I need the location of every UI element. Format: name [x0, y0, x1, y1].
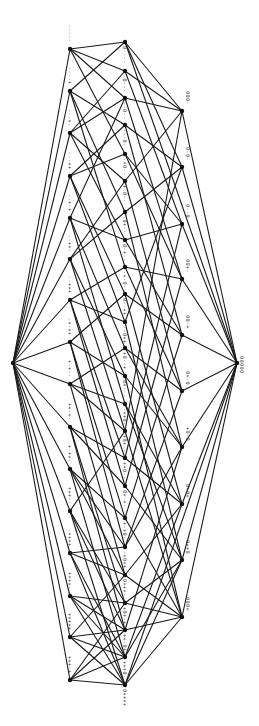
node-right — [180, 222, 184, 226]
node-label-left: ++++- — [67, 572, 73, 590]
edge-top-left — [13, 342, 70, 363]
node-middle — [123, 429, 127, 433]
node-label-middle: -+0-- — [122, 158, 128, 176]
edge-middle-right — [125, 111, 182, 181]
edge-top-left — [13, 91, 70, 363]
node-label-middle: 0+--- — [122, 380, 128, 398]
node-left — [68, 425, 72, 429]
node-label-left: ----- — [67, 25, 73, 43]
node-middle — [123, 265, 127, 269]
node-middle — [123, 69, 127, 73]
node-left — [68, 89, 72, 93]
node-label-right: 0--0 — [185, 204, 191, 218]
edge-top-left — [13, 133, 70, 363]
node-right — [180, 109, 184, 113]
edge-middle-right — [125, 294, 182, 504]
node-label-middle: -0--- — [122, 75, 128, 93]
node-middle — [123, 573, 127, 577]
edge-left-middle — [70, 553, 125, 685]
node-middle — [123, 456, 127, 460]
node-label-middle: -++0- — [122, 408, 128, 426]
node-label-middle: ---0- — [122, 129, 128, 147]
node-label-middle: 0++++ — [122, 689, 128, 707]
node-right — [180, 445, 184, 449]
node-label-left: +-++- — [67, 445, 73, 463]
node-left — [68, 174, 72, 178]
node-right — [180, 277, 184, 281]
lattice-svg: 00000---------+---+----++--+-+--++---+++… — [0, 0, 259, 726]
edge-middle-bottom — [125, 42, 237, 363]
node-label-middle: +++0- — [122, 661, 128, 679]
node-label-left: ---+- — [67, 109, 73, 127]
node-left — [68, 467, 72, 471]
node-label-middle: -+0++ — [122, 551, 128, 569]
node-right — [180, 615, 184, 619]
node-label-middle: +0+-+ — [122, 607, 128, 625]
edge-top-left — [13, 363, 70, 469]
edge-top-left — [13, 363, 70, 596]
edge-top-left — [13, 218, 70, 363]
node-label-right: 0++0 — [185, 540, 191, 554]
edge-left-middle — [70, 133, 125, 240]
node-left — [68, 594, 72, 598]
node-label-right: 000- — [185, 91, 191, 105]
edge-left-middle — [70, 469, 125, 575]
node-middle — [123, 123, 127, 127]
node-label-left: +++-+ — [67, 656, 73, 674]
edge-left-middle — [70, 547, 125, 553]
node-label-left: +-+-- — [67, 360, 73, 378]
node-middle — [123, 346, 127, 350]
node-label-right: 00+- — [185, 259, 191, 273]
node-left — [68, 298, 72, 302]
edge-middle-right — [125, 617, 182, 685]
node-middle — [123, 683, 127, 687]
node-middle — [123, 516, 127, 520]
node-right — [180, 165, 184, 169]
edge-top-left — [13, 363, 70, 384]
node-label-middle: ++-0+ — [122, 634, 128, 652]
node-label-left: --+++ — [67, 276, 73, 294]
node-label-middle: -+-0- — [122, 271, 128, 289]
node-label-middle: +-0-- — [122, 185, 128, 203]
node-middle — [123, 96, 127, 100]
node-left — [68, 509, 72, 513]
node-left — [68, 340, 72, 344]
node-right — [180, 389, 184, 393]
edge-left-middle — [70, 342, 125, 518]
edge-middle-right — [125, 560, 182, 685]
node-middle — [123, 628, 127, 632]
edge-left-middle — [70, 384, 125, 575]
node-middle — [123, 179, 127, 183]
node-middle — [123, 320, 127, 324]
node-label-middle: 0---- — [122, 46, 128, 64]
node-label-right: 000+ — [185, 597, 191, 611]
edge-middle-bottom — [125, 363, 237, 685]
edge-left-middle — [70, 91, 125, 267]
edge-middle-right — [125, 560, 182, 657]
node-middle — [123, 374, 127, 378]
node-left — [68, 131, 72, 135]
node-label-left: ---++ — [67, 152, 73, 170]
node-label-left: ----+ — [67, 67, 73, 85]
edge-left-middle — [70, 42, 125, 49]
node-label-right: 0+-0 — [185, 371, 191, 385]
edge-right-bottom — [182, 224, 237, 363]
node-right — [180, 333, 184, 337]
node-middle — [123, 210, 127, 214]
edge-left-middle — [70, 680, 125, 685]
node-left — [68, 257, 72, 261]
node-right — [180, 502, 184, 506]
node-label-right: 00-+ — [185, 315, 191, 329]
node-middle — [123, 40, 127, 44]
node-label-middle: 0+-+- — [122, 490, 128, 508]
node-bottom — [235, 361, 239, 365]
edge-left-middle — [70, 630, 125, 637]
edge-right-bottom — [182, 363, 237, 560]
edge-middle-right — [125, 224, 182, 458]
lattice-diagram: 00000---------+---+----++--+-+--++---+++… — [0, 0, 259, 726]
node-label-middle: +-+0- — [122, 522, 128, 540]
edge-left-middle — [70, 511, 125, 603]
node-label-middle: 0--++ — [122, 298, 128, 316]
node-label-right: 0-0- — [185, 147, 191, 161]
edge-left-middle — [70, 384, 125, 431]
